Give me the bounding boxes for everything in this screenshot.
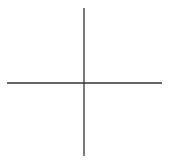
crosshair-icon [0,0,170,162]
crosshair-diagram [0,0,170,162]
